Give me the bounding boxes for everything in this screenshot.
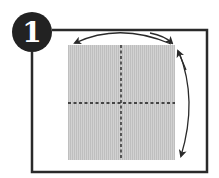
step-number: 1: [22, 16, 41, 49]
top-fold-arrow: [75, 33, 172, 44]
origami-step-diagram: 1: [0, 0, 219, 178]
right-fold-arrow: [178, 51, 189, 156]
step-number-badge: 1: [12, 12, 52, 52]
